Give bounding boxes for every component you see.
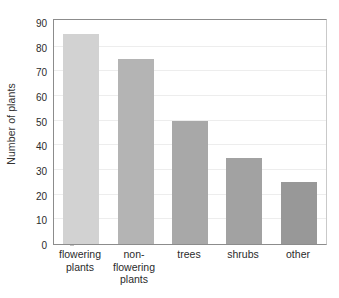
bar: [172, 121, 208, 244]
bar: [118, 59, 154, 244]
y-axis-title: Number of plants: [5, 83, 17, 165]
x-axis-tick-label: flowering plants: [53, 248, 107, 273]
bar: [226, 158, 262, 244]
y-axis-tick-label: 10: [36, 215, 47, 226]
bar-chart-figure: Number of plants 0102030405060708090 flo…: [0, 0, 339, 298]
y-axis-tick-label: 50: [36, 116, 47, 127]
y-axis-tick-label: 30: [36, 166, 47, 177]
x-axis-tick-labels: flowering plantsnon-flowering plantstree…: [53, 248, 327, 298]
y-axis-tick-label: 70: [36, 67, 47, 78]
y-axis-tick-label: 40: [36, 141, 47, 152]
x-axis-tick-label: other: [271, 248, 325, 261]
bar: [281, 182, 317, 244]
x-axis-tick-label: shrubs: [216, 248, 270, 261]
chart-title: [60, 0, 330, 7]
bar-series: [54, 20, 326, 244]
plot-area: [53, 19, 327, 245]
y-axis-tick-label: 90: [36, 18, 47, 29]
y-axis-tick-label: 0: [41, 240, 47, 251]
y-axis-tick-label: 20: [36, 190, 47, 201]
x-axis-tick-label: trees: [162, 248, 216, 261]
y-axis-tick-label: 60: [36, 92, 47, 103]
x-axis-tick-label: non-flowering plants: [107, 248, 161, 286]
y-axis-tick-label: 80: [36, 42, 47, 53]
y-axis-tick-labels: 0102030405060708090: [22, 14, 47, 245]
bar: [63, 34, 99, 244]
y-axis-title-container: Number of plants: [0, 0, 22, 248]
